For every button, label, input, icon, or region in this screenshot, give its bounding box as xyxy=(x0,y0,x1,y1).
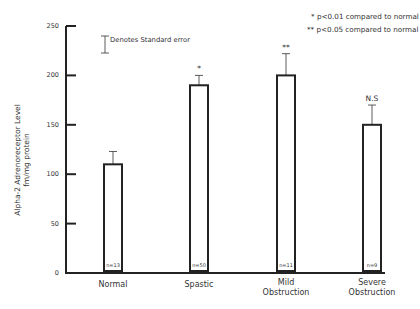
bar-n-label: n=50 xyxy=(190,262,208,268)
y-axis-label-line-2: fm/mg protein xyxy=(22,104,31,216)
significance-marker: N.S xyxy=(362,94,382,103)
legend-note-p001: * p<0.01 compared to normal xyxy=(311,12,419,21)
x-category-label: MildObstruction xyxy=(246,278,326,298)
bar-base xyxy=(363,270,381,273)
legend-note-p005: ** p<0.05 compared to normal xyxy=(307,25,418,34)
bar-base xyxy=(104,270,122,273)
significance-marker: ** xyxy=(276,43,296,52)
bar-spastic xyxy=(190,85,208,273)
x-category-label: SevereObstruction xyxy=(332,278,412,298)
y-tick-label: 200 xyxy=(39,71,59,79)
chart-plot-area xyxy=(0,0,420,309)
y-tick-label: 250 xyxy=(39,22,59,30)
error-bar-legend-text: Denotes Standard error xyxy=(110,36,190,44)
bar-mild-obstruction xyxy=(277,75,295,273)
y-axis-label: Alpha-2 Adrenoreceptor Level fm/mg prote… xyxy=(13,104,31,216)
x-category-label: Normal xyxy=(73,280,153,290)
x-category-label: Spastic xyxy=(159,280,239,290)
bar-n-label: n=11 xyxy=(277,262,295,268)
bar-chart: Alpha-2 Adrenoreceptor Level fm/mg prote… xyxy=(0,0,420,309)
bar-severe-obstruction xyxy=(363,125,381,273)
bar-n-label: n=9 xyxy=(363,262,381,268)
bar-base xyxy=(190,270,208,273)
y-tick-label: 50 xyxy=(39,220,59,228)
y-tick-label: 150 xyxy=(39,121,59,129)
y-axis-label-line-1: Alpha-2 Adrenoreceptor Level xyxy=(13,104,22,216)
bar-base xyxy=(277,270,295,273)
bar-normal xyxy=(104,164,122,273)
y-tick-label: 0 xyxy=(39,269,59,277)
significance-marker: * xyxy=(189,64,209,73)
bar-n-label: n=13 xyxy=(104,262,122,268)
y-tick-label: 100 xyxy=(39,170,59,178)
